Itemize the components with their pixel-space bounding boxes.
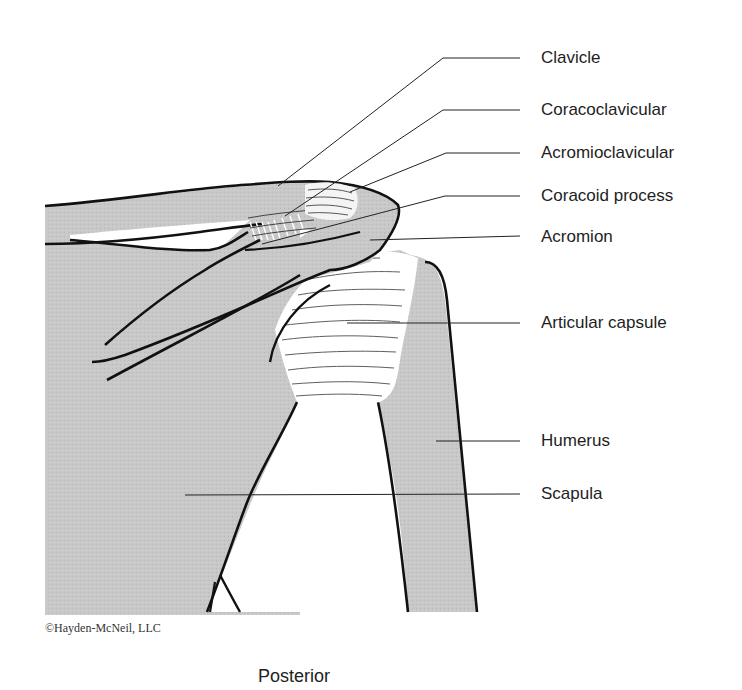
label-coracoclavicular: Coracoclavicular [541, 100, 667, 120]
leader-clavicle [278, 58, 520, 186]
label-acromioclavicular: Acromioclavicular [541, 143, 674, 163]
label-humerus: Humerus [541, 431, 610, 451]
leader-acromion [370, 236, 520, 240]
label-acromion: Acromion [541, 227, 613, 247]
copyright-notice: ©Hayden-McNeil, LLC [45, 621, 161, 636]
label-coracoid-process: Coracoid process [541, 186, 673, 206]
leader-acromioclavicular [350, 153, 520, 192]
label-clavicle: Clavicle [541, 48, 601, 68]
label-scapula: Scapula [541, 484, 602, 504]
label-articular-capsule: Articular capsule [541, 313, 667, 333]
view-caption: Posterior [258, 666, 330, 687]
